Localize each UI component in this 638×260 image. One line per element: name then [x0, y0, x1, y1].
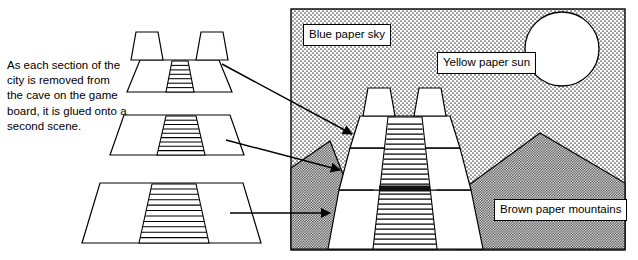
city-section-top: [127, 32, 232, 92]
caption-text: As each section of the city is removed f…: [7, 58, 129, 134]
city-section-middle: [110, 115, 244, 155]
diagram-canvas: As each section of the city is removed f…: [0, 0, 638, 260]
label-brown-paper-mountains: Brown paper mountains: [494, 199, 627, 221]
label-yellow-paper-sun: Yellow paper sun: [437, 52, 536, 74]
label-blue-paper-sky: Blue paper sky: [303, 24, 391, 46]
sun: [525, 12, 599, 86]
